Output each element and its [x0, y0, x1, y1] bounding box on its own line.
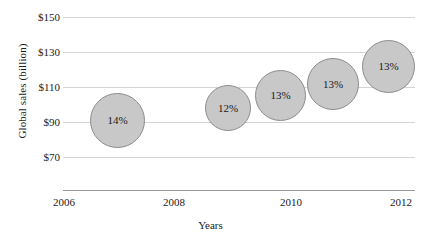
- y-tick-label: $130: [20, 46, 60, 58]
- y-tick-label: $70: [20, 151, 60, 163]
- plot-area: 14% 12% 13% 13% 13%: [63, 0, 415, 242]
- x-tick-label: 2006: [53, 196, 75, 208]
- bubble-point[interactable]: 12%: [205, 85, 251, 131]
- y-tick-label: $110: [20, 81, 60, 93]
- x-axis-title: Years: [0, 219, 421, 231]
- bubble-label: 12%: [218, 103, 238, 114]
- bubble-label: 13%: [270, 90, 290, 101]
- y-tick-label: $150: [20, 11, 60, 23]
- gridline: [63, 17, 415, 18]
- bubble-label: 13%: [378, 61, 398, 72]
- bubble-label: 14%: [107, 115, 127, 126]
- bubble-point[interactable]: 13%: [307, 58, 359, 110]
- gridline: [63, 52, 415, 53]
- x-tick-label: 2010: [280, 196, 302, 208]
- bubble-chart: Global sales (billion) $150 $130 $110 $9…: [0, 0, 421, 242]
- gridline: [63, 157, 415, 158]
- bubble-point[interactable]: 14%: [90, 93, 145, 148]
- bubble-point[interactable]: 13%: [255, 70, 306, 121]
- bubble-point[interactable]: 13%: [362, 40, 415, 93]
- y-tick-label: $90: [20, 116, 60, 128]
- x-tick-label: 2012: [390, 196, 412, 208]
- x-tick-label: 2008: [163, 196, 185, 208]
- x-axis-line: [63, 190, 415, 191]
- bubble-label: 13%: [323, 79, 343, 90]
